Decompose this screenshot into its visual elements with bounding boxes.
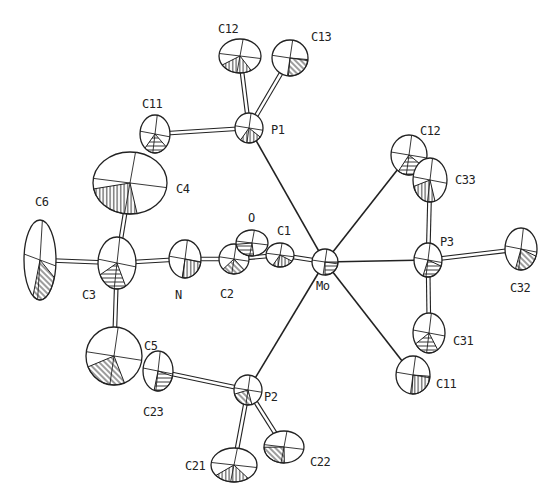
bond-mo-c12b [325, 155, 409, 262]
atom-c6-ellipsoid [24, 220, 56, 300]
atom-mo-ellipsoid [312, 249, 338, 275]
atom-p2-ellipsoid [234, 375, 262, 405]
atom-label: C32 [510, 281, 530, 295]
atom-label: P2 [264, 390, 278, 404]
molecule-canvas: C12C13C11P1C4C6OC1C3NC2MoC12C33P3C32C31C… [0, 0, 559, 496]
atom-label: P1 [271, 123, 285, 137]
atom-label: C31 [453, 334, 473, 348]
atom-label: C11 [142, 97, 162, 111]
atom-c23-ellipsoid [143, 351, 173, 391]
atom-c22-ellipsoid [264, 431, 304, 463]
atom-c12a-ellipsoid [219, 39, 261, 73]
bond-mo-p3 [325, 260, 428, 262]
atom-label: O [248, 211, 255, 225]
atom-label: C3 [82, 288, 96, 302]
bond-mo-c11b [325, 262, 413, 375]
bond-mo-p2 [248, 262, 325, 390]
atom-label: C6 [35, 195, 49, 209]
ortep-diagram: C12C13C11P1C4C6OC1C3NC2MoC12C33P3C32C31C… [0, 0, 559, 496]
atom-c31-ellipsoid [413, 313, 445, 353]
atom-c11b-ellipsoid [396, 356, 430, 394]
atom-label: C5 [144, 339, 158, 353]
atom-label: N [175, 288, 182, 302]
atom-o-ellipsoid [236, 230, 268, 256]
atom-c21-ellipsoid [211, 448, 257, 482]
atom-label: C22 [310, 455, 330, 469]
atom-label: C11 [436, 377, 456, 391]
atom-c3-ellipsoid [98, 237, 136, 289]
atom-c32-ellipsoid [505, 228, 537, 270]
atom-label: C13 [311, 30, 331, 44]
atom-label: C12 [218, 22, 238, 36]
atom-n-ellipsoid [169, 240, 201, 278]
atom-p3-ellipsoid [414, 243, 442, 277]
atom-c11a-ellipsoid [140, 115, 170, 153]
atom-c4-ellipsoid [93, 152, 167, 214]
atom-label: C21 [185, 459, 205, 473]
atoms-layer [24, 39, 537, 482]
atom-c5-ellipsoid [86, 327, 142, 385]
atom-c1-ellipsoid [266, 243, 294, 267]
atom-label: C33 [455, 173, 475, 187]
atom-label: C12 [420, 124, 440, 138]
atom-label: C2 [220, 287, 234, 301]
atom-c33-ellipsoid [413, 158, 447, 202]
atom-c13-ellipsoid [272, 40, 308, 76]
atom-label: Mo [316, 279, 330, 293]
atom-label: C23 [143, 405, 163, 419]
atom-label: C1 [277, 224, 291, 238]
atom-label: P3 [440, 235, 454, 249]
atom-p1-ellipsoid [235, 113, 263, 143]
atom-label: C4 [176, 182, 190, 196]
